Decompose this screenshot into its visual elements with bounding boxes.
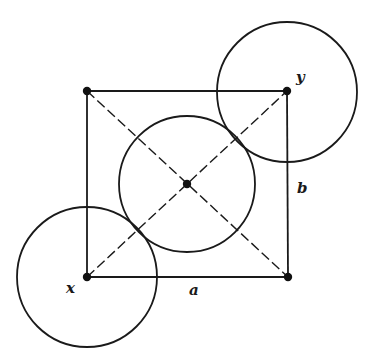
label-x: x bbox=[65, 279, 76, 297]
vertex-center bbox=[183, 180, 191, 188]
vertex-top-left bbox=[83, 87, 91, 95]
vertex-y bbox=[283, 87, 291, 95]
label-a: a bbox=[189, 281, 199, 299]
label-b: b bbox=[297, 179, 308, 197]
rectangle-circles-diagram: y x a b bbox=[0, 0, 368, 358]
vertex-bottom-right bbox=[284, 273, 292, 281]
label-y: y bbox=[295, 68, 306, 86]
vertex-x bbox=[83, 273, 91, 281]
right-edge-b bbox=[287, 91, 288, 277]
